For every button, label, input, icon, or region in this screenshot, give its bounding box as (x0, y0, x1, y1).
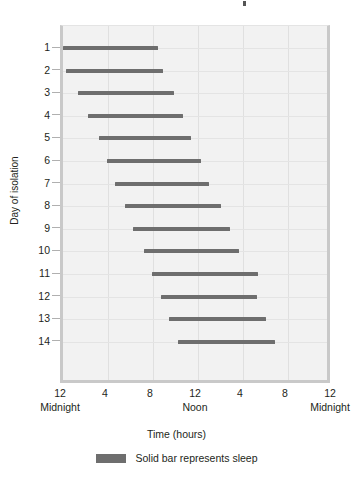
y-tick-mark (52, 295, 60, 296)
y-tick-mark (52, 114, 60, 115)
x-axis-tick-label: 12Midnight (295, 386, 353, 414)
legend-label-sleep: Solid bar represents sleep (136, 452, 258, 464)
sleep-bar (78, 91, 175, 95)
y-tick-value: 12 (38, 289, 50, 303)
y-tick-mark (52, 318, 60, 319)
sleep-bar (144, 249, 239, 253)
x-tick-period: Midnight (25, 400, 95, 414)
sleep-bar (133, 227, 230, 231)
sleep-bar (169, 317, 266, 321)
y-tick-mark (52, 250, 60, 251)
y-tick-mark (52, 137, 60, 138)
sleep-bar (107, 159, 202, 163)
x-tick-period: Midnight (295, 400, 353, 414)
y-tick-mark (52, 340, 60, 341)
x-axis-title: Time (hours) (0, 428, 353, 440)
y-tick-mark (52, 47, 60, 48)
y-tick-value: 7 (44, 176, 50, 190)
x-tick-hour: 12 (295, 386, 353, 400)
sleep-bar (161, 295, 257, 299)
y-tick-value: 6 (44, 153, 50, 167)
sleep-bar (152, 272, 258, 276)
y-tick-value: 10 (38, 243, 50, 257)
y-tick-value: 4 (44, 108, 50, 122)
y-axis-tick-label: 11 (0, 266, 60, 280)
y-tick-value: 8 (44, 198, 50, 212)
sleep-bar (115, 182, 210, 186)
chart-legend: Solid bar represents sleep (0, 452, 353, 464)
y-axis-tick-label: 2 (0, 63, 60, 77)
x-axis-ticks: 12Midnight4812Noon4812Midnight (0, 386, 353, 426)
sleep-isolation-chart: 1234567891011121314 Day of isolation 12M… (0, 0, 353, 487)
sleep-bar (178, 340, 275, 344)
y-tick-value: 3 (44, 85, 50, 99)
y-tick-mark (52, 92, 60, 93)
sleep-bar (66, 69, 163, 73)
sleep-bar (99, 136, 191, 140)
sleep-bar (88, 114, 184, 118)
y-axis-tick-label: 3 (0, 85, 60, 99)
bars-layer (63, 26, 327, 380)
y-axis-tick-label: 4 (0, 108, 60, 122)
sleep-bar (125, 204, 221, 208)
y-axis-tick-label: 12 (0, 289, 60, 303)
plot-area (60, 25, 330, 383)
y-tick-value: 11 (39, 266, 50, 280)
x-tick-period: Noon (160, 400, 230, 414)
y-axis-tick-label: 14 (0, 334, 60, 348)
y-tick-mark (52, 160, 60, 161)
y-tick-mark (52, 69, 60, 70)
y-tick-value: 14 (38, 334, 50, 348)
y-axis-title: Day of isolation (9, 131, 20, 251)
title-artifact (243, 1, 246, 6)
y-tick-mark (52, 182, 60, 183)
sleep-bar (63, 46, 158, 50)
legend-swatch-sleep (96, 454, 126, 463)
y-tick-value: 9 (44, 221, 50, 235)
y-axis-tick-label: 13 (0, 311, 60, 325)
y-tick-mark (52, 205, 60, 206)
y-tick-value: 13 (38, 311, 50, 325)
y-axis-tick-label: 1 (0, 40, 60, 54)
y-tick-value: 2 (44, 63, 50, 77)
y-tick-mark (52, 227, 60, 228)
y-tick-value: 5 (44, 130, 50, 144)
y-tick-value: 1 (44, 40, 50, 54)
y-tick-mark (52, 273, 60, 274)
